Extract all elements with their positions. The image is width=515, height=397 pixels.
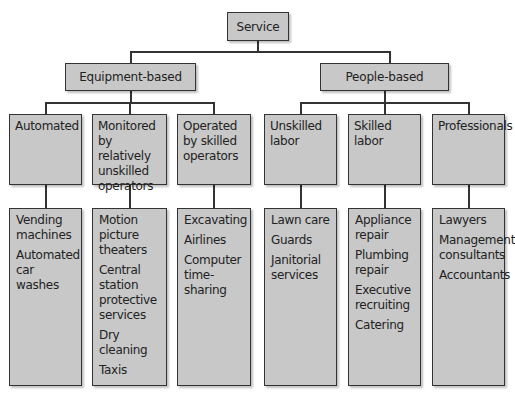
connector [213, 184, 215, 208]
example-item: Lawyers [439, 213, 501, 228]
connector [45, 102, 47, 114]
connector [468, 102, 470, 114]
example-item: Executive recruiting [355, 283, 417, 313]
connector [468, 184, 470, 208]
connector [300, 102, 302, 114]
node-people-based: People-based [320, 63, 449, 91]
node-service: Service [227, 12, 289, 41]
example-item: Lawn care [271, 213, 333, 228]
node-label: Professionals [438, 119, 512, 133]
example-item: Computer time-sharing [184, 253, 247, 298]
connector [129, 102, 131, 114]
connector [389, 51, 391, 63]
connector [130, 51, 132, 63]
node-label: Equipment-based [79, 70, 182, 84]
node-automated: Automated [9, 114, 82, 185]
example-item: Janitorial services [271, 253, 333, 283]
examples-professionals: Lawyers Management consultants Accountan… [432, 208, 505, 386]
node-label: Service [237, 20, 280, 34]
example-item: Management consultants [439, 233, 501, 263]
node-label: Skilled labor [354, 119, 391, 148]
examples-operated: Excavating Airlines Computer time-sharin… [177, 208, 251, 386]
node-label: Operated by skilled operators [183, 119, 238, 163]
example-item: Motion picture theaters [99, 213, 163, 258]
example-item: Accountants [439, 268, 501, 283]
node-label: Monitored by relatively unskilled operat… [98, 119, 156, 193]
example-item: Dry cleaning [99, 328, 163, 358]
examples-skilled-labor: Appliance repair Plumbing repair Executi… [348, 208, 421, 386]
example-item: Appliance repair [355, 213, 417, 243]
example-item: Central station protective services [99, 263, 163, 323]
examples-monitored: Motion picture theaters Central station … [92, 208, 167, 386]
example-item: Automated car washes [16, 248, 78, 293]
connector [384, 184, 386, 208]
node-monitored: Monitored by relatively unskilled operat… [92, 114, 167, 185]
node-label: Automated [15, 119, 79, 133]
example-item: Vending machines [16, 213, 78, 243]
node-label: People-based [345, 70, 423, 84]
example-item: Guards [271, 233, 333, 248]
example-item: Catering [355, 318, 417, 333]
connector [130, 51, 390, 53]
connector [213, 102, 215, 114]
node-professionals: Professionals [432, 114, 505, 185]
connector [384, 102, 386, 114]
node-label: Unskilled labor [270, 119, 322, 148]
example-item: Airlines [184, 233, 247, 248]
connector [45, 184, 47, 208]
example-item: Plumbing repair [355, 248, 417, 278]
node-operated: Operated by skilled operators [177, 114, 251, 185]
examples-unskilled-labor: Lawn care Guards Janitorial services [264, 208, 337, 386]
examples-automated: Vending machines Automated car washes [9, 208, 82, 386]
node-skilled-labor: Skilled labor [348, 114, 421, 185]
node-unskilled-labor: Unskilled labor [264, 114, 337, 185]
example-item: Excavating [184, 213, 247, 228]
example-item: Taxis [99, 363, 163, 378]
connector [300, 184, 302, 208]
node-equipment-based: Equipment-based [65, 63, 196, 91]
